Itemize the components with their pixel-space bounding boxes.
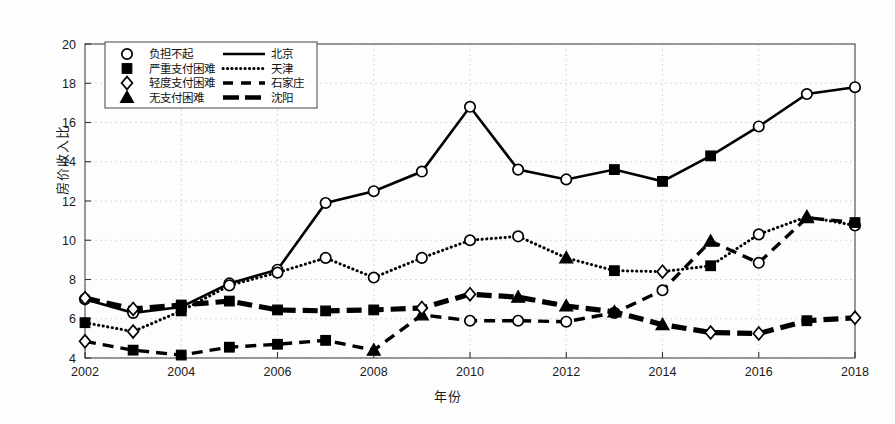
marker-square (369, 305, 379, 315)
marker-circle (754, 258, 764, 268)
line-chart-canvas: 4681012141618202002200420062008201020122… (0, 0, 895, 424)
marker-diamond (128, 325, 139, 338)
marker-circle (802, 89, 812, 99)
marker-square (225, 342, 235, 352)
marker-circle (561, 174, 571, 184)
x-tick-label: 2010 (456, 365, 484, 379)
legend-marker-label: 负担不起 (149, 47, 194, 61)
marker-circle (272, 267, 282, 277)
legend-line-label: 天津 (271, 62, 293, 76)
marker-circle (850, 82, 860, 92)
legend-marker-label: 严重支付困难 (149, 62, 215, 76)
marker-diamond (753, 327, 764, 340)
marker-diamond (850, 311, 861, 324)
y-tick-label: 20 (62, 38, 76, 52)
marker-circle (224, 280, 234, 290)
marker-square (850, 218, 860, 228)
marker-circle (417, 166, 427, 176)
marker-square (706, 151, 716, 161)
marker-circle (465, 235, 475, 245)
marker-square (128, 345, 138, 355)
marker-square (225, 296, 235, 306)
marker-square (610, 266, 620, 276)
marker-square (122, 64, 132, 74)
marker-circle (122, 49, 132, 59)
legend-marker-label: 无支付困难 (149, 91, 204, 105)
y-tick-label: 6 (69, 312, 76, 326)
marker-square (80, 318, 90, 328)
marker-circle (465, 316, 475, 326)
marker-square (321, 306, 331, 316)
marker-circle (465, 102, 475, 112)
marker-square (321, 336, 331, 346)
x-tick-label: 2014 (649, 365, 677, 379)
marker-diamond (705, 326, 716, 339)
legend-line-label: 沈阳 (271, 91, 293, 105)
marker-circle (369, 272, 379, 282)
marker-circle (754, 121, 764, 131)
marker-square (802, 316, 812, 326)
marker-circle (561, 316, 571, 326)
x-tick-label: 2016 (745, 365, 773, 379)
y-axis-label: 房价收入比 (52, 105, 71, 215)
x-tick-label: 2006 (264, 365, 292, 379)
marker-circle (513, 164, 523, 174)
y-tick-label: 18 (62, 77, 76, 91)
marker-diamond (416, 302, 427, 315)
x-axis-label: 年份 (0, 386, 895, 405)
marker-square (610, 165, 620, 175)
marker-diamond (657, 265, 668, 278)
marker-square (176, 350, 186, 360)
legend-line-label: 北京 (271, 47, 293, 61)
marker-square (273, 305, 283, 315)
x-tick-label: 2004 (167, 365, 195, 379)
marker-diamond (80, 335, 91, 348)
marker-circle (320, 198, 330, 208)
marker-circle (320, 253, 330, 263)
marker-square (273, 339, 283, 349)
legend-line-label: 石家庄 (271, 76, 304, 90)
y-tick-label: 10 (62, 234, 76, 248)
x-tick-label: 2008 (360, 365, 388, 379)
marker-circle (657, 285, 667, 295)
marker-square (658, 177, 668, 187)
marker-square (176, 300, 186, 310)
legend: 负担不起严重支付困难轻度支付困难无支付困难北京天津石家庄沈阳 (105, 42, 317, 108)
x-tick-label: 2012 (552, 365, 580, 379)
legend-marker-label: 轻度支付困难 (149, 76, 215, 90)
marker-diamond (465, 288, 476, 301)
marker-square (706, 261, 716, 271)
marker-circle (513, 316, 523, 326)
y-tick-label: 8 (69, 273, 76, 287)
marker-circle (417, 253, 427, 263)
chart-figure: 4681012141618202002200420062008201020122… (0, 0, 895, 424)
x-tick-label: 2002 (71, 365, 99, 379)
marker-triangle (560, 251, 573, 263)
marker-circle (513, 231, 523, 241)
x-tick-label: 2018 (841, 365, 869, 379)
marker-circle (754, 229, 764, 239)
series-沈阳 (80, 288, 861, 340)
y-tick-label: 4 (69, 352, 76, 366)
marker-circle (369, 186, 379, 196)
